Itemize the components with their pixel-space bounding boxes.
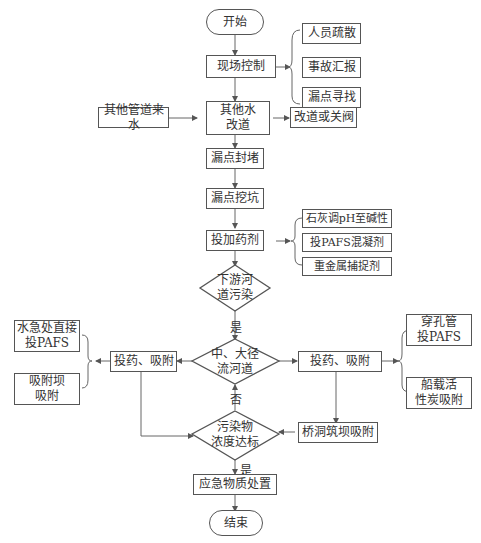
other-pipe-inflow-box: 其他管道来水 [98, 107, 169, 128]
start-node: 开始 [206, 9, 264, 35]
dosing-option-pafs: 投PAFS混凝剂 [302, 233, 392, 252]
dosing-option-label: 石灰调pH至碱性 [306, 211, 389, 226]
right-option-label: 船载活 性炭吸附 [415, 378, 463, 408]
left-adsorb-label: 投药、吸附 [114, 354, 174, 369]
reroute-label: 改道或关阀 [294, 110, 354, 125]
downstream-decision-label: 下游河 道污染 [217, 273, 253, 303]
left-option-label: 水急处直接 投PAFS [17, 321, 77, 351]
site-action-evacuate: 人员疏散 [302, 23, 361, 44]
site-action-label: 事故汇报 [308, 60, 356, 75]
leak-dig-label: 漏点挖坑 [211, 191, 259, 206]
emergency-disposal-label: 应急物质处置 [199, 477, 271, 492]
emergency-disposal-box: 应急物质处置 [193, 474, 277, 495]
dosing-option-lime: 石灰调pH至碱性 [302, 209, 392, 228]
end-node: 结束 [209, 510, 263, 536]
dosing-label: 投加药剂 [211, 233, 259, 248]
dosing-option-label: 重金属捕捉剂 [314, 259, 380, 274]
other-water-reroute-box: 其他水 改道 [206, 101, 270, 135]
site-action-locate-leak: 漏点寻找 [302, 87, 361, 108]
no-label: 否 [230, 390, 242, 407]
yes-label-downstream: 是 [230, 318, 242, 335]
flowchart-canvas: 开始 结束 现场控制 人员疏散 事故汇报 漏点寻找 其他水 改道 其他管道来水 … [0, 0, 481, 543]
river-decision-label: 中、大径 流河道 [211, 347, 259, 377]
downstream-decision-text: 下游河 道污染 [205, 272, 265, 304]
bridge-dam-box: 桥洞筑坝吸附 [298, 422, 378, 443]
start-label: 开始 [223, 15, 247, 30]
site-control-box: 现场控制 [206, 55, 276, 78]
right-adsorb-box: 投药、吸附 [298, 351, 382, 372]
left-option-adsorb-dam: 吸附坝 吸附 [14, 373, 80, 405]
concentration-decision-label: 污染物 浓度达标 [211, 420, 259, 450]
site-action-label: 漏点寻找 [308, 90, 356, 105]
reroute-or-close-box: 改道或关阀 [290, 107, 357, 128]
right-option-perforated-pipe: 穿孔管 投PAFS [406, 314, 472, 346]
site-control-label: 现场控制 [217, 59, 265, 74]
concentration-decision-text: 污染物 浓度达标 [200, 419, 270, 451]
left-adsorb-box: 投药、吸附 [110, 351, 177, 372]
leak-dig-box: 漏点挖坑 [206, 188, 264, 209]
left-option-label: 吸附坝 吸附 [29, 374, 65, 404]
other-pipe-label: 其他管道来水 [99, 103, 168, 133]
dosing-option-heavy-metal: 重金属捕捉剂 [302, 257, 392, 276]
left-option-direct-pafs: 水急处直接 投PAFS [14, 320, 80, 352]
dosing-box: 投加药剂 [206, 230, 264, 251]
leak-seal-label: 漏点封堵 [211, 151, 259, 166]
end-label: 结束 [224, 516, 248, 531]
right-option-label: 穿孔管 投PAFS [417, 315, 461, 345]
river-decision-text: 中、大径 流河道 [200, 346, 270, 378]
right-option-boat-carbon: 船载活 性炭吸附 [406, 377, 472, 409]
bridge-dam-label: 桥洞筑坝吸附 [302, 425, 374, 440]
leak-seal-box: 漏点封堵 [206, 148, 264, 169]
site-action-label: 人员疏散 [308, 26, 356, 41]
right-adsorb-label: 投药、吸附 [310, 354, 370, 369]
dosing-option-label: 投PAFS混凝剂 [310, 235, 384, 250]
other-water-label: 其他水 改道 [220, 103, 256, 133]
site-action-report: 事故汇报 [302, 57, 361, 78]
